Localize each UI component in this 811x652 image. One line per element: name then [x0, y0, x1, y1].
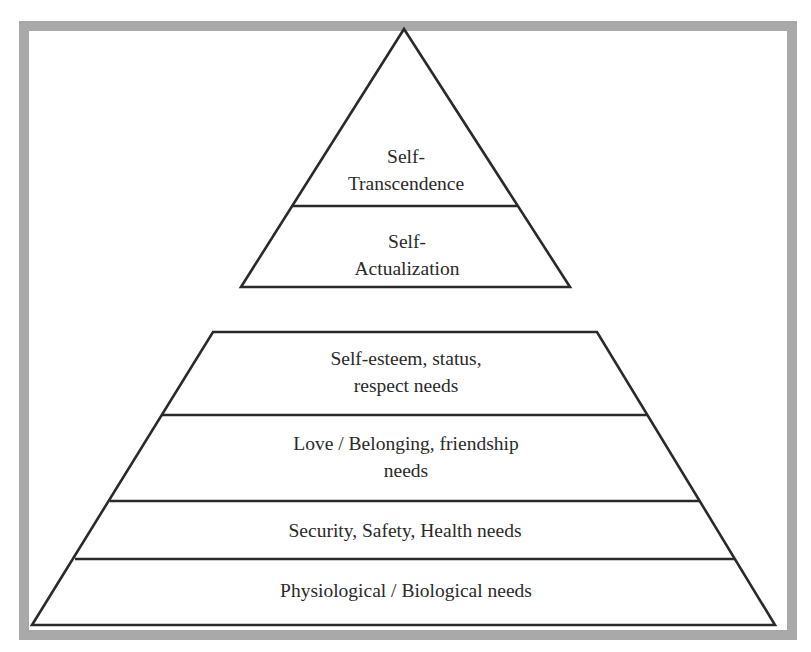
level-label-line1: Self-: [354, 228, 459, 255]
level-label-line1: Physiological / Biological needs: [280, 577, 532, 604]
level-security-safety: Security, Safety, Health needs: [288, 517, 521, 544]
level-self-actualization: Self- Actualization: [354, 228, 459, 282]
level-self-esteem: Self-esteem, status, respect needs: [330, 345, 481, 399]
level-love-belonging: Love / Belonging, friendship needs: [293, 430, 518, 484]
level-label-line1: Security, Safety, Health needs: [288, 517, 521, 544]
level-label-line1: Self-esteem, status,: [330, 345, 481, 372]
level-label-line2: Actualization: [354, 255, 459, 282]
pyramid-diagram: [0, 0, 811, 652]
level-label-line2: respect needs: [330, 372, 481, 399]
level-label-line1: Self-: [348, 143, 464, 170]
level-physiological: Physiological / Biological needs: [280, 577, 532, 604]
level-label-line1: Love / Belonging, friendship: [293, 430, 518, 457]
level-label-line2: Transcendence: [348, 170, 464, 197]
level-label-line2: needs: [293, 457, 518, 484]
level-self-transcendence: Self- Transcendence: [348, 143, 464, 197]
